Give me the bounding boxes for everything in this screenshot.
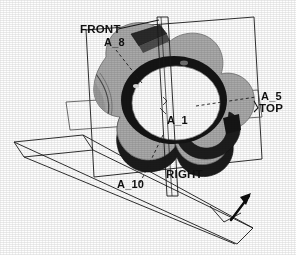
label-axis-a10: A_10 [117,178,144,190]
label-right-plane: RIGHT [166,168,203,180]
label-front-plane: FRONT [80,23,121,35]
label-axis-a5: A_5 [261,90,282,102]
plane-normal-arrow [231,193,251,220]
bore-inner [132,66,220,140]
cad-figure-svg: FRONT TOP RIGHT A_8 A_5 A_1 A_10 [0,0,296,255]
top-label-leader [254,101,258,112]
label-axis-a8: A_8 [104,36,125,48]
label-axis-a1: A_1 [167,114,188,126]
label-top-plane: TOP [259,102,283,114]
technical-drawing-canvas: FRONT TOP RIGHT A_8 A_5 A_1 A_10 [0,0,296,255]
